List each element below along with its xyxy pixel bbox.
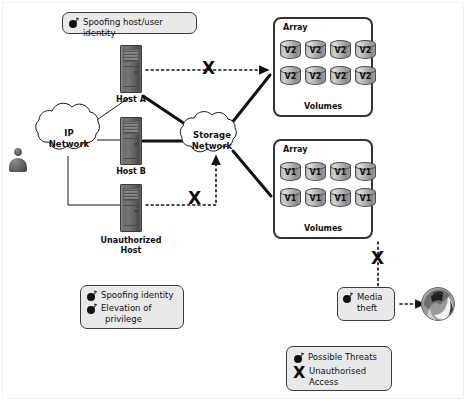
array-1-title: Array	[283, 23, 307, 32]
volume: V1	[305, 188, 326, 208]
user-actor-icon	[8, 147, 28, 173]
volume: V1	[355, 188, 376, 208]
host-b-icon	[120, 117, 142, 165]
legend-box: Possible Threats X Unauthorised Access	[286, 346, 392, 391]
diagram-frame	[2, 2, 464, 399]
bomb-icon	[87, 303, 98, 314]
ip-network-label: IP Network	[38, 128, 100, 150]
bomb-icon	[294, 352, 305, 363]
x-marker-unauthhost-storage: X	[188, 188, 201, 208]
callout-media-theft: Media theft	[337, 287, 395, 321]
volume: V1	[280, 188, 301, 208]
media-theft-line2: theft	[357, 303, 383, 314]
volume: V2	[305, 40, 326, 60]
volume: V2	[355, 66, 376, 86]
media-theft-thief-icon	[421, 287, 455, 321]
unauthorized-host-drive-bays	[123, 188, 139, 201]
volume: V1	[330, 162, 351, 182]
user-head	[13, 147, 23, 157]
bomb-icon	[87, 290, 98, 301]
user-body	[8, 157, 28, 173]
volume: V2	[305, 66, 326, 86]
legend-unauthorised-line1: Unauthorised	[309, 366, 366, 377]
volume: V1	[280, 162, 301, 182]
bomb-icon	[343, 292, 354, 303]
unauthorized-host-label: Unauthorized Host	[88, 236, 174, 256]
volume: V2	[355, 40, 376, 60]
host-a-drive-bays	[123, 49, 139, 62]
host-a-icon	[120, 45, 142, 93]
volume: V2	[330, 66, 351, 86]
legend-unauthorised-line2: Access	[309, 377, 366, 388]
volume: V1	[355, 162, 376, 182]
callout-spoofing-host-user: Spoofing host/user identity	[62, 12, 197, 34]
legend-possible-threats-text: Possible Threats	[308, 352, 377, 363]
volume: V2	[280, 40, 301, 60]
volume: V1	[305, 162, 326, 182]
x-marker-hosta-array1: X	[202, 58, 215, 78]
threat-spoofing-identity-text: Spoofing identity	[101, 290, 173, 301]
array-2-volumes-label: Volumes	[275, 224, 371, 233]
host-b-label: Host B	[102, 167, 160, 177]
callout-unauthorized-threats: Spoofing identity Elevation of privilege	[80, 285, 184, 329]
callout-spoofing-host-user-text: Spoofing host/user identity	[83, 17, 196, 39]
media-theft-line1: Media	[357, 292, 383, 303]
diagram-canvas: IP Network Storage Network Host A Host B…	[0, 0, 468, 403]
volume: V1	[330, 188, 351, 208]
bomb-icon	[69, 17, 80, 28]
host-b-drive-bays	[123, 121, 139, 134]
volume: V2	[330, 40, 351, 60]
x-marker-array2-media: X	[371, 248, 384, 268]
storage-network-label: Storage Network	[182, 130, 242, 152]
unauthorized-host-icon	[120, 184, 142, 232]
array-2-title: Array	[283, 145, 307, 154]
volume: V2	[280, 66, 301, 86]
host-a-label: Host A	[102, 95, 160, 105]
array-1-volumes-label: Volumes	[275, 102, 371, 111]
threat-elevation-line1: Elevation of	[101, 303, 151, 314]
x-icon: X	[293, 366, 305, 380]
threat-elevation-line2: privilege	[105, 314, 151, 325]
